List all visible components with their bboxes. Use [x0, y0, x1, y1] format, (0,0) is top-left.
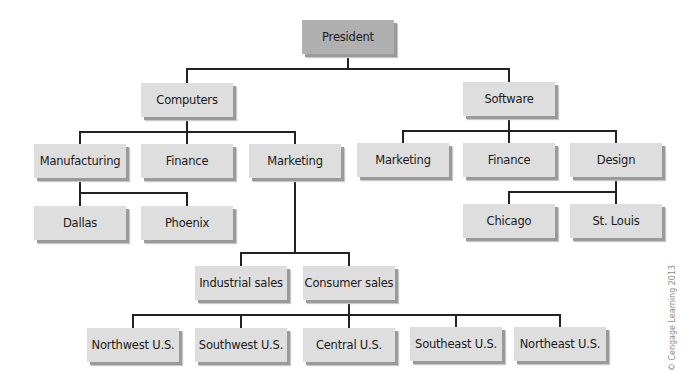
connector-to-southwest [240, 314, 242, 328]
org-node-northwest: Northwest U.S. [87, 328, 179, 362]
org-node-comp-manufacturing: Manufacturing [34, 144, 126, 178]
connector-to-comp-marketing [294, 131, 296, 144]
org-node-label: Finance [166, 154, 209, 168]
org-node-label: Finance [488, 153, 531, 167]
org-node-label: Southwest U.S. [199, 338, 283, 352]
org-node-label: Consumer sales [305, 276, 394, 290]
org-node-label: Northeast U.S. [520, 337, 601, 351]
org-node-phoenix: Phoenix [141, 206, 233, 240]
connector-to-consumer-sales [348, 252, 350, 266]
org-node-soft-design: Design [570, 143, 662, 177]
org-node-southwest: Southwest U.S. [195, 328, 287, 362]
connector-software-stem [508, 116, 510, 131]
org-node-label: Dallas [63, 216, 97, 230]
connector-president-stem [347, 54, 349, 69]
org-node-dallas: Dallas [34, 206, 126, 240]
org-node-label: Computers [156, 93, 217, 107]
connector-to-computers [186, 68, 188, 83]
copyright-notice: © Cengage Learning 2013 [668, 265, 677, 371]
org-node-soft-marketing: Marketing [357, 143, 449, 177]
org-node-president: President [302, 20, 394, 54]
connector-to-southeast [455, 314, 457, 327]
org-node-label: Northwest U.S. [91, 338, 174, 352]
connector-soft-design-stem [615, 177, 617, 192]
org-node-industrial-sales: Industrial sales [195, 266, 287, 300]
connector-computers-stem [186, 117, 188, 132]
org-node-label: Chicago [487, 214, 532, 228]
org-node-label: Marketing [375, 153, 431, 167]
org-node-computers: Computers [141, 83, 233, 117]
org-node-comp-marketing: Marketing [249, 144, 341, 178]
connector-to-industrial-sales [240, 252, 242, 266]
connector-to-comp-finance [186, 131, 188, 144]
org-node-label: Industrial sales [199, 276, 283, 290]
connector-to-central [348, 314, 350, 328]
org-node-label: Central U.S. [316, 338, 382, 352]
org-node-label: Marketing [267, 154, 323, 168]
connector-consumer-sales-bus [132, 314, 561, 316]
org-node-soft-finance: Finance [463, 143, 555, 177]
org-node-southeast: Southeast U.S. [410, 327, 502, 361]
connector-to-soft-marketing [402, 130, 404, 143]
org-node-label: Design [597, 153, 636, 167]
connector-consumer-sales-stem [348, 300, 350, 315]
connector-comp-marketing-stem [294, 178, 296, 253]
connector-to-chicago [508, 191, 510, 204]
connector-soft-design-bus [508, 191, 617, 193]
connector-to-soft-design [615, 130, 617, 143]
connector-to-dallas [79, 192, 81, 206]
org-node-label: Phoenix [165, 216, 209, 230]
org-node-software: Software [463, 82, 555, 116]
org-node-label: St. Louis [592, 214, 639, 228]
connector-president-bus [186, 68, 510, 70]
org-node-central: Central U.S. [303, 328, 395, 362]
org-node-label: Software [484, 92, 533, 106]
org-node-northeast: Northeast U.S. [514, 327, 606, 361]
org-node-consumer-sales: Consumer sales [303, 266, 395, 300]
connector-comp-marketing-bus [240, 252, 350, 254]
connector-comp-manufacturing-stem [79, 178, 81, 193]
connector-to-soft-finance [508, 130, 510, 143]
org-node-st-louis: St. Louis [570, 204, 662, 238]
org-node-label: President [322, 30, 374, 44]
org-node-comp-finance: Finance [141, 144, 233, 178]
connector-to-comp-manufacturing [79, 131, 81, 144]
connector-to-st-louis [615, 191, 617, 204]
connector-to-phoenix [186, 192, 188, 206]
connector-to-northeast [559, 314, 561, 327]
org-node-chicago: Chicago [463, 204, 555, 238]
connector-to-software [508, 68, 510, 82]
org-node-label: Manufacturing [40, 154, 121, 168]
connector-comp-manufacturing-bus [79, 192, 188, 194]
org-node-label: Southeast U.S. [415, 337, 497, 351]
connector-to-northwest [132, 314, 134, 328]
